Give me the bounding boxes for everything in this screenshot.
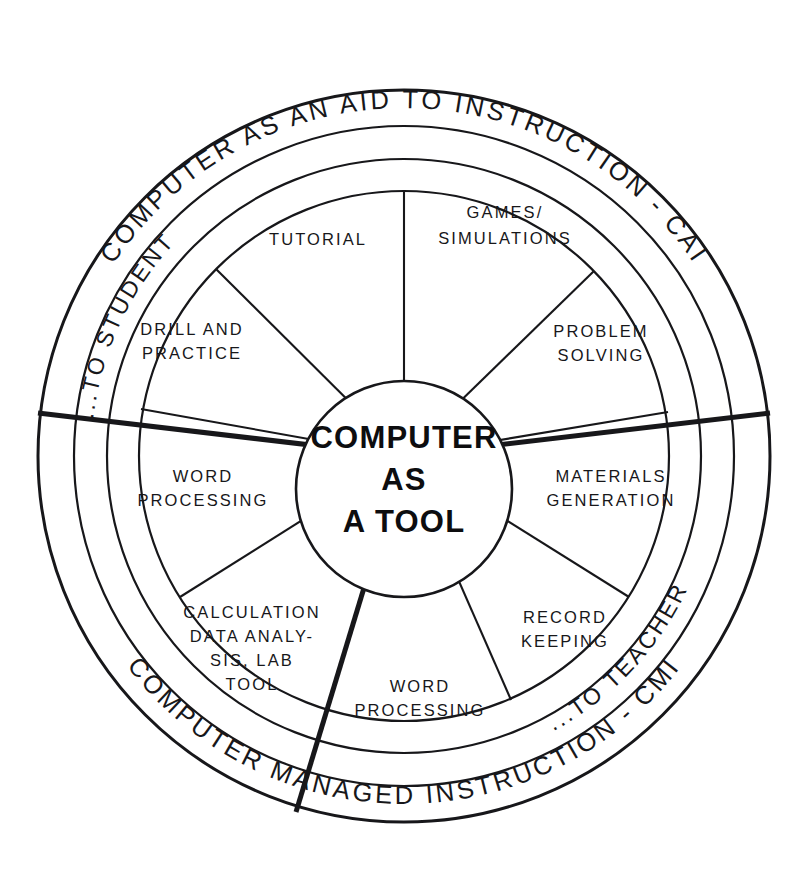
sector-wpleft-line-1: PROCESSING — [137, 491, 268, 509]
sector-tutorial-line-0: TUTORIAL — [269, 230, 367, 248]
sector-games-line-0: GAMES/ — [467, 203, 544, 221]
sector-calc-line-1: DATA ANALY- — [190, 627, 314, 645]
sector-wpbottom-line-1: PROCESSING — [354, 701, 485, 719]
sector-drill-line-1: PRACTICE — [142, 344, 242, 362]
sector-drill-line-0: DRILL AND — [140, 320, 244, 338]
sector-drill-and-practice: DRILL AND PRACTICE — [140, 320, 244, 362]
diagram-canvas: COMPUTER AS AN AID TO INSTRUCTION - CAI … — [0, 0, 807, 895]
sector-calc-line-3: TOOL — [225, 675, 278, 693]
sector-games-line-1: SIMULATIONS — [438, 229, 572, 247]
sector-problem-solving: PROBLEM SOLVING — [553, 322, 648, 364]
hub-line-2: AS — [381, 462, 426, 497]
sector-calc-line-2: SIS, LAB — [210, 651, 294, 669]
sector-wpbottom-line-0: WORD — [390, 677, 451, 695]
sector-materials-line-0: MATERIALS — [555, 467, 666, 485]
sector-word-processing-left: WORD PROCESSING — [137, 467, 268, 509]
hub-line-3: A TOOL — [343, 504, 466, 539]
sector-record-line-0: RECORD — [523, 608, 607, 626]
sector-problem-line-0: PROBLEM — [553, 322, 648, 340]
sector-problem-line-1: SOLVING — [558, 346, 645, 364]
sector-wpleft-line-0: WORD — [173, 467, 234, 485]
hub-line-1: COMPUTER — [311, 420, 498, 455]
sector-materials-line-1: GENERATION — [547, 491, 676, 509]
sector-games-simulations: GAMES/ SIMULATIONS — [438, 203, 572, 247]
sector-materials-generation: MATERIALS GENERATION — [547, 467, 676, 509]
wheel-diagram: COMPUTER AS AN AID TO INSTRUCTION - CAI … — [0, 0, 807, 895]
sector-word-processing-bottom: WORD PROCESSING — [354, 677, 485, 719]
sector-record-keeping: RECORD KEEPING — [521, 608, 609, 650]
sector-tutorial: TUTORIAL — [269, 230, 367, 248]
sector-calc-line-0: CALCULATION — [183, 603, 320, 621]
sector-calculation-data-analysis: CALCULATION DATA ANALY- SIS, LAB TOOL — [183, 603, 320, 693]
sector-record-line-1: KEEPING — [521, 632, 609, 650]
